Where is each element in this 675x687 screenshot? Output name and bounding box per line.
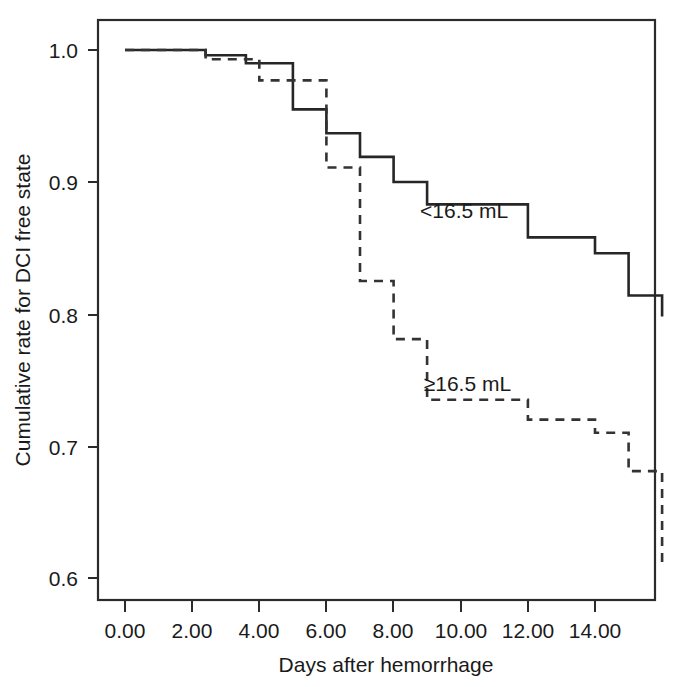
y-axis-title: Cumulative rate for DCI free state bbox=[11, 154, 34, 467]
y-axis-ticks bbox=[88, 50, 98, 578]
x-tick-label-3: 4.00 bbox=[239, 619, 280, 642]
x-axis-ticks bbox=[125, 600, 595, 612]
x-tick-label-5: 8.00 bbox=[373, 619, 414, 642]
x-tick-label-2: 2.00 bbox=[172, 619, 213, 642]
y-tick-label-5: 0.6 bbox=[49, 567, 78, 590]
x-tick-label-4: 6.00 bbox=[306, 619, 347, 642]
x-tick-label-1: 0.00 bbox=[105, 619, 146, 642]
kaplan-meier-figure: 1.0 0.9 0.8 0.7 0.6 0.00 2.00 4.00 6.00 … bbox=[0, 0, 675, 687]
x-tick-label-7: 12.00 bbox=[502, 619, 555, 642]
x-axis-title: Days after hemorrhage bbox=[279, 653, 494, 676]
series-label-high-volume: ≥16.5 mL bbox=[424, 372, 511, 395]
x-tick-label-8: 14.00 bbox=[569, 619, 622, 642]
survival-curve-high-volume bbox=[125, 50, 662, 565]
y-tick-label-2: 0.9 bbox=[49, 171, 78, 194]
y-tick-label-1: 1.0 bbox=[49, 39, 78, 62]
x-tick-label-6: 10.00 bbox=[435, 619, 488, 642]
plot-canvas: 1.0 0.9 0.8 0.7 0.6 0.00 2.00 4.00 6.00 … bbox=[0, 0, 675, 687]
series-label-low-volume: <16.5 mL bbox=[420, 199, 508, 222]
y-axis-tick-labels: 1.0 0.9 0.8 0.7 0.6 bbox=[49, 39, 78, 590]
plot-frame bbox=[98, 20, 655, 600]
y-tick-label-4: 0.7 bbox=[49, 436, 78, 459]
x-axis-tick-labels: 0.00 2.00 4.00 6.00 8.00 10.00 12.00 14.… bbox=[105, 619, 622, 642]
survival-curve-low-volume bbox=[125, 50, 662, 317]
y-tick-label-3: 0.8 bbox=[49, 304, 78, 327]
